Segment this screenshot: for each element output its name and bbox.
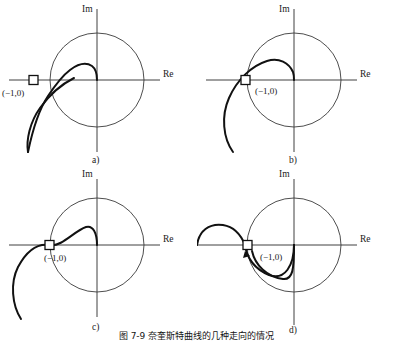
re-axis-label: Re [163, 234, 174, 244]
im-axis-label: Im [82, 4, 93, 14]
nyquist-curve [13, 227, 97, 319]
panel-b: Im Re (−1,0) b) [197, 0, 393, 172]
re-axis-label: Re [360, 234, 371, 244]
im-axis-label: Im [82, 169, 93, 179]
re-axis-label: Re [163, 69, 174, 79]
critical-point-label: (−1,0) [44, 253, 66, 263]
re-axis-label: Re [360, 69, 371, 79]
panel-a: Im Re (−1,0) a) [0, 0, 196, 172]
critical-point-marker [29, 76, 38, 85]
critical-point-label: (−1,0) [2, 88, 24, 98]
panel-a-plot: Im Re (−1,0) a) [0, 0, 196, 172]
im-axis-label: Im [279, 4, 290, 14]
nyquist-curve [224, 60, 294, 152]
panel-c-plot: Im Re (−1,0) c) [0, 165, 196, 337]
panel-d: Im Re (−1,0) d) [197, 165, 393, 337]
nyquist-curve-left-lobe [197, 225, 245, 245]
critical-point-marker [45, 241, 54, 250]
nyquist-figure: Im Re (−1,0) a) Im Re (−1,0) b) Im R [0, 0, 393, 344]
im-axis-label: Im [279, 169, 290, 179]
critical-point-marker [241, 76, 250, 85]
panel-c: Im Re (−1,0) c) [0, 165, 196, 337]
figure-caption-row: 图 7-9 奈奎斯特曲线的几种走向的情况 [0, 330, 393, 344]
figure-caption: 图 7-9 奈奎斯特曲线的几种走向的情况 [0, 330, 393, 343]
nyquist-curve-inner-loop [252, 245, 294, 279]
panel-b-plot: Im Re (−1,0) b) [197, 0, 393, 172]
panel-d-plot: Im Re (−1,0) d) [197, 165, 393, 337]
critical-point-label: (−1,0) [255, 86, 277, 96]
critical-point-marker [243, 241, 252, 250]
critical-point-label: (−1,0) [260, 252, 282, 262]
